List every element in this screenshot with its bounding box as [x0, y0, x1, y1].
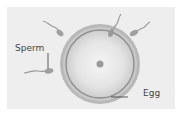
sperm-1 — [43, 21, 65, 37]
sperm-label: Sperm — [15, 44, 44, 53]
egg — [60, 24, 140, 104]
sperm-head — [129, 29, 139, 38]
sperm-4 — [24, 68, 54, 74]
egg-label: Egg — [143, 89, 160, 98]
sperm-head — [55, 29, 64, 38]
sperm-head — [44, 68, 54, 74]
sperm-3 — [129, 22, 150, 37]
egg-nucleus — [97, 61, 104, 68]
